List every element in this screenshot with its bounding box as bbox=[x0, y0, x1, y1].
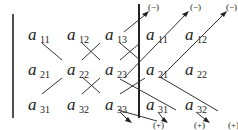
entry-a31-repeat: a31 bbox=[146, 95, 168, 115]
matrix-entries: a11 a12 a13 a11 a12 a21 a22 a23 a21 a22 … bbox=[28, 25, 207, 115]
svg-text:a: a bbox=[185, 25, 194, 44]
svg-text:23: 23 bbox=[117, 69, 127, 80]
svg-text:a: a bbox=[105, 25, 114, 44]
svg-text:21: 21 bbox=[40, 69, 50, 80]
svg-text:a: a bbox=[105, 60, 114, 79]
svg-text:12: 12 bbox=[197, 34, 207, 45]
entry-a31: a31 bbox=[28, 95, 50, 115]
svg-text:11: 11 bbox=[158, 34, 168, 45]
plus-label-3: (+) bbox=[228, 120, 238, 130]
svg-text:a: a bbox=[28, 95, 37, 114]
entry-a32: a32 bbox=[67, 95, 89, 115]
svg-text:32: 32 bbox=[197, 104, 207, 115]
entry-a22-repeat: a22 bbox=[185, 60, 207, 80]
entry-a11: a11 bbox=[28, 25, 50, 45]
entry-a12: a12 bbox=[67, 25, 89, 45]
svg-text:a: a bbox=[67, 25, 76, 44]
svg-text:32: 32 bbox=[79, 104, 89, 115]
entry-a33: a33 bbox=[105, 95, 127, 115]
svg-text:a: a bbox=[146, 60, 155, 79]
svg-text:21: 21 bbox=[158, 69, 168, 80]
svg-text:a: a bbox=[67, 60, 76, 79]
svg-text:a: a bbox=[185, 60, 194, 79]
svg-text:13: 13 bbox=[117, 34, 127, 45]
arrowheads bbox=[125, 11, 227, 123]
svg-text:a: a bbox=[28, 60, 37, 79]
minus-label-2: (−) bbox=[190, 2, 201, 12]
entry-a21: a21 bbox=[28, 60, 50, 80]
minus-labels: (−) (−) (−) bbox=[148, 2, 237, 12]
entry-a21-repeat: a21 bbox=[146, 60, 168, 80]
plus-label-1: (+) bbox=[153, 120, 164, 130]
svg-text:22: 22 bbox=[79, 69, 89, 80]
svg-text:a: a bbox=[67, 95, 76, 114]
plus-label-2: (+) bbox=[194, 120, 205, 130]
svg-text:31: 31 bbox=[40, 104, 50, 115]
minus-label-1: (−) bbox=[148, 2, 159, 12]
svg-text:22: 22 bbox=[197, 69, 207, 80]
entry-a11-repeat: a11 bbox=[146, 25, 168, 45]
svg-text:a: a bbox=[185, 95, 194, 114]
svg-text:a: a bbox=[146, 95, 155, 114]
sarrus-diagram: a11 a12 a13 a11 a12 a21 a22 a23 a21 a22 … bbox=[0, 0, 238, 130]
svg-text:a: a bbox=[146, 25, 155, 44]
svg-text:33: 33 bbox=[117, 104, 127, 115]
minus-label-3: (−) bbox=[226, 2, 237, 12]
entry-a23: a23 bbox=[105, 60, 127, 80]
svg-text:a: a bbox=[105, 95, 114, 114]
svg-text:11: 11 bbox=[40, 34, 50, 45]
svg-text:31: 31 bbox=[158, 104, 168, 115]
entry-a13: a13 bbox=[105, 25, 127, 45]
svg-text:12: 12 bbox=[79, 34, 89, 45]
svg-text:a: a bbox=[28, 25, 37, 44]
entry-a22: a22 bbox=[67, 60, 89, 80]
